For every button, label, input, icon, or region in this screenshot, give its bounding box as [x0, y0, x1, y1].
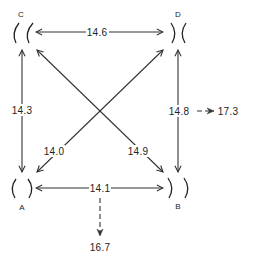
node-label-d: D — [175, 10, 181, 19]
edge-label-a-c: 14.3 — [12, 105, 33, 116]
node-label-b: B — [175, 202, 180, 211]
edge-label-c-d: 14.6 — [87, 27, 108, 38]
node-c: C — [14, 10, 33, 44]
edge-label-a-d: 14.0 — [44, 146, 65, 157]
node-label-c: C — [18, 10, 24, 19]
node-label-a: A — [19, 203, 25, 212]
node-c-bracket-left — [14, 23, 19, 43]
node-d-bracket-left — [171, 23, 175, 43]
derived-label-down: 16.7 — [90, 242, 111, 253]
edge-label-b-d: 14.8 — [169, 106, 190, 117]
node-a-bracket-left — [12, 179, 16, 198]
node-d-bracket-right — [182, 23, 186, 43]
node-d: D — [171, 10, 186, 44]
edge-label-a-b: 14.1 — [90, 183, 111, 194]
node-b-bracket-right — [184, 178, 188, 198]
node-b-bracket-left — [168, 178, 172, 198]
node-c-bracket-right — [27, 23, 33, 43]
node-a-bracket-right — [28, 179, 32, 198]
edge-label-c-b: 14.9 — [128, 146, 149, 157]
derived-label-right: 17.3 — [218, 106, 239, 117]
coupling-diagram: 14.6 14.3 14.8 14.1 14.9 14.0 17.3 16.7 … — [0, 0, 253, 259]
node-a: A — [12, 179, 32, 212]
node-b: B — [168, 178, 188, 211]
